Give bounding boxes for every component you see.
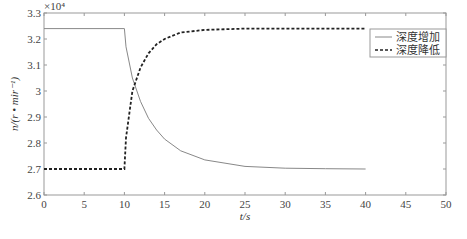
x-tick-label: 35	[320, 198, 332, 210]
x-tick-label: 50	[441, 198, 453, 210]
x-tick-label: 30	[280, 198, 292, 210]
y-tick-label: 3.1	[27, 59, 41, 71]
y-tick-label: 2.6	[27, 189, 41, 201]
y-tick-label: 2.8	[27, 137, 41, 149]
line-chart: 05101520253035404550 2.62.72.82.933.13.2…	[0, 0, 467, 239]
x-tick-label: 10	[119, 198, 131, 210]
y-tick-label: 3.2	[27, 33, 41, 45]
legend-item-depth-decrease: 深度降低	[396, 43, 440, 57]
x-tick-label: 15	[159, 198, 171, 210]
x-axis-label: t/s	[240, 210, 250, 222]
legend-item-depth-increase: 深度增加	[396, 30, 440, 44]
legend: 深度增加 深度降低	[370, 29, 446, 57]
x-tick-label: 25	[240, 198, 252, 210]
y-tick-label: 2.9	[27, 111, 41, 123]
x-tick-label: 0	[41, 198, 47, 210]
x-tick-label: 40	[360, 198, 372, 210]
x-tick-label: 5	[81, 198, 87, 210]
y-tick-label: 2.7	[27, 163, 41, 175]
y-tick-label: 3	[36, 85, 42, 97]
y-tick-label: 3.3	[27, 7, 41, 19]
x-tick-label: 45	[400, 198, 412, 210]
y-axis-multiplier: ×10⁴	[44, 0, 65, 12]
y-axis-label: n/(r • mir⁻¹)	[8, 77, 21, 131]
x-tick-label: 20	[199, 198, 211, 210]
